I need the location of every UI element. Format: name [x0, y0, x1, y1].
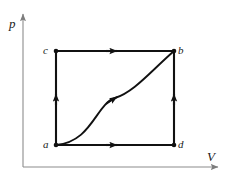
segment-a-to-b-arrow	[107, 97, 117, 103]
volume-axis-label: V	[207, 150, 215, 163]
vertex-label-c: c	[43, 45, 48, 56]
vertex-label-b: b	[178, 45, 184, 56]
pressure-axis-label: p	[9, 17, 16, 30]
vertex-dot-a	[54, 143, 59, 148]
cycle-path-group	[56, 51, 174, 145]
pv-diagram-canvas	[0, 0, 235, 182]
pv-diagram-figure: p V c b a d	[0, 0, 235, 182]
vertex-dot-b	[172, 49, 177, 54]
vertex-dot-d	[172, 143, 177, 148]
vertex-label-d: d	[178, 139, 184, 150]
vertex-label-a: a	[43, 139, 49, 150]
vertex-dot-c	[54, 49, 59, 54]
